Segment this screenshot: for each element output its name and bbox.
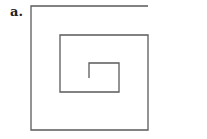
spiral-diagram xyxy=(0,0,207,139)
square-spiral-line xyxy=(31,6,148,130)
